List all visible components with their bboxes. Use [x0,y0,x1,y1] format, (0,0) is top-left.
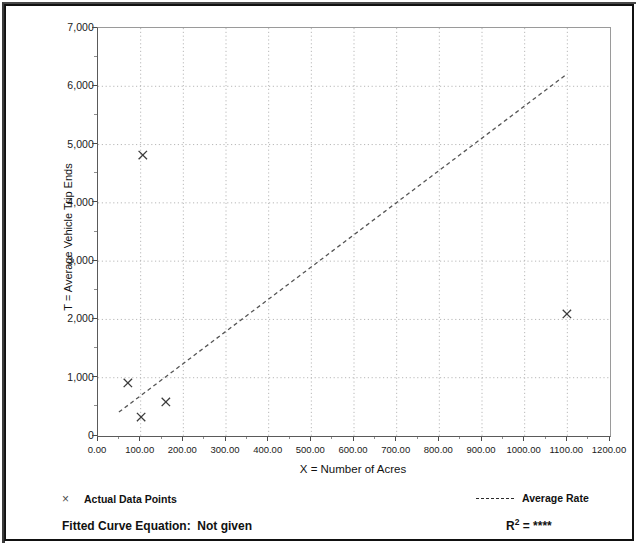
r-squared-equals: = [523,519,530,533]
legend-average-rate-label: Average Rate [522,492,589,504]
y-axis-tick-label: 0 [34,429,94,441]
y-axis-tick-label: 6,000 [34,79,94,91]
r-squared-exponent: 2 [515,517,520,527]
chart-figure: T = Average Vehicle Trip Ends X = Number… [10,10,628,535]
legend-datapoint-label: Actual Data Points [84,493,177,505]
r-squared-symbol: R [506,519,515,533]
legend-average-rate-line-icon [476,498,514,499]
legend-datapoint-marker-icon: × [62,493,69,505]
y-axis-tick-label: 3,000 [34,254,94,266]
y-axis-tick-label: 4,000 [34,196,94,208]
r-squared-value: **** [533,519,552,533]
x-axis-tick-label: 1200.00 [574,444,638,455]
y-axis-tick-label: 1,000 [34,371,94,383]
plot-area [97,27,611,437]
data-layer [98,28,610,436]
y-axis-tick-label: 7,000 [34,21,94,33]
fitted-curve-equation-label: Fitted Curve Equation: [62,519,191,533]
chart-page: T = Average Vehicle Trip Ends X = Number… [0,0,638,545]
r-squared-statistic: R2 = **** [506,517,552,533]
y-axis-tick-label: 5,000 [34,138,94,150]
fitted-curve-equation: Fitted Curve Equation: Not given [62,519,252,533]
y-axis-tick-label: 2,000 [34,312,94,324]
x-axis-title: X = Number of Acres [97,463,609,475]
fitted-curve-equation-value: Not given [197,519,252,533]
